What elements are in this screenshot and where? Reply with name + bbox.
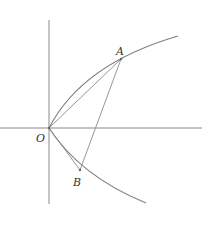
parabola-diagram: A B O — [0, 0, 214, 225]
label-O: O — [36, 132, 45, 145]
parabola-curve — [49, 36, 178, 203]
label-A: A — [115, 45, 124, 58]
segment-OB — [49, 128, 80, 170]
segment-AB — [80, 59, 121, 170]
label-B: B — [72, 176, 81, 189]
segment-OA — [49, 59, 121, 128]
point-A — [120, 58, 122, 60]
point-O — [48, 127, 50, 129]
point-B — [79, 169, 81, 171]
